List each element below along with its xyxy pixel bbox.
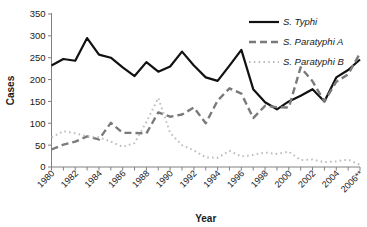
x-tick-label: 2006** <box>339 168 366 195</box>
line-chart: 050100150200250300350 198019821984198619… <box>0 0 367 227</box>
x-tick-label: 2004 <box>320 168 341 189</box>
y-tick-label: 200 <box>30 74 46 85</box>
series-line-3 <box>52 98 361 165</box>
y-tick-label: 0 <box>40 161 45 172</box>
legend-label-1: S. Typhi <box>283 16 318 27</box>
series-line-1 <box>52 38 361 109</box>
x-tick-label: 1982 <box>59 168 80 189</box>
x-tick-label: 2000 <box>272 168 293 189</box>
x-tick-label: 2002 <box>296 168 317 189</box>
x-tick-label: 1992 <box>178 168 199 189</box>
x-axis-ticks: 1980198219841986198819901992199419961998… <box>35 167 365 195</box>
y-tick-label: 350 <box>30 8 46 19</box>
chart-figure: 050100150200250300350 198019821984198619… <box>0 0 367 227</box>
y-axis-ticks: 050100150200250300350 <box>30 8 52 172</box>
legend-label-3: S. Paratyphi B <box>283 56 344 67</box>
y-axis-title: Cases <box>5 75 16 105</box>
x-tick-label: 1986 <box>106 168 127 189</box>
x-tick-label: 1998 <box>249 168 270 189</box>
y-tick-label: 50 <box>35 140 46 151</box>
y-tick-label: 100 <box>30 118 46 129</box>
y-tick-label: 150 <box>30 96 46 107</box>
x-tick-label: 1988 <box>130 168 151 189</box>
x-tick-label: 1984 <box>83 168 104 189</box>
x-tick-label: 1994 <box>201 168 222 189</box>
chart-legend: S. TyphiS. Paratyphi AS. Paratyphi B <box>249 16 344 67</box>
series-line-2 <box>52 53 361 149</box>
x-tick-label: 1980 <box>35 168 56 189</box>
y-tick-label: 250 <box>30 52 46 63</box>
legend-label-2: S. Paratyphi A <box>283 36 343 47</box>
y-tick-label: 300 <box>30 30 46 41</box>
x-tick-label: 1990 <box>154 168 175 189</box>
x-tick-label: 1996 <box>225 168 246 189</box>
x-axis-title: Year <box>195 213 216 224</box>
